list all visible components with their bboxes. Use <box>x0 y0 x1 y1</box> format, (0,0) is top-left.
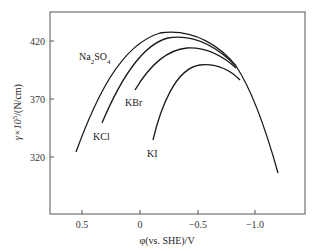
x-tick-0.5: 0.5 <box>76 219 89 230</box>
curve-kcl <box>102 37 236 123</box>
y-tick-370: 370 <box>30 94 45 105</box>
y-axis-title: γ×105/(N/cm) <box>11 84 24 140</box>
electrocapillary-chart: 420 370 320 0.5 0 −0.5 −1.0 φ(vs. SHE)/V… <box>0 0 315 251</box>
plot-frame <box>50 12 305 214</box>
x-tick-minus-0.5: −0.5 <box>189 219 207 230</box>
label-kcl: KCl <box>93 131 110 142</box>
label-ki: KI <box>147 148 158 159</box>
y-tick-320: 320 <box>30 152 45 163</box>
y-axis-title-unit: /(N/cm) <box>12 84 24 116</box>
label-na2so4-sub4: 4 <box>107 58 111 66</box>
x-tick-0: 0 <box>138 219 143 230</box>
label-na2so4: Na2SO4 <box>79 51 111 66</box>
y-axis-title-main: γ×10 <box>12 119 23 140</box>
x-axis: 0.5 0 −0.5 −1.0 <box>76 210 264 230</box>
label-na2so4-na: Na <box>79 51 91 62</box>
y-tick-420: 420 <box>30 36 45 47</box>
label-na2so4-so: SO <box>94 51 107 62</box>
curve-ki <box>153 65 240 140</box>
label-kbr: KBr <box>125 97 143 108</box>
x-axis-title: φ(vs. SHE)/V <box>139 235 195 247</box>
x-tick-minus-1.0: −1.0 <box>246 219 264 230</box>
curve-kbr <box>135 48 236 90</box>
